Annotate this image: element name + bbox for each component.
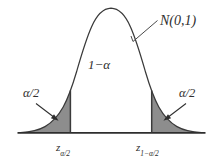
right-tail-label-arrow: [163, 104, 186, 121]
distribution-label: N(0,1): [160, 14, 196, 28]
left-tail-area-label: α/2: [23, 87, 39, 100]
left-tail-label-arrow: [36, 104, 59, 121]
left-tick-label: zα/2: [56, 142, 70, 156]
distribution-label-leader-tick: [131, 36, 133, 42]
distribution-label-leader-line: [133, 21, 158, 42]
right-tail-area-label: α/2: [179, 87, 195, 100]
central-area-label: 1−α: [88, 58, 110, 71]
normal-distribution-figure: N(0,1) 1−α α/2 α/2 zα/2 z1−α/2: [0, 0, 222, 167]
right-tick-subscript: 1−α/2: [140, 149, 159, 158]
right-tick-label: z1−α/2: [136, 142, 159, 156]
left-tick-subscript: α/2: [60, 149, 70, 158]
